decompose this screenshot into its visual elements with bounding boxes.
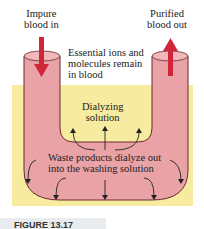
purified-blood-out-label: Purified blood out (147, 8, 187, 30)
label-line: blood in (24, 19, 59, 30)
figure-caption: FIGURE 13.17 (0, 218, 106, 229)
impure-blood-in-label: Impure blood in (24, 8, 59, 30)
label-line: Dialyzing (82, 101, 123, 112)
label-line: molecules remain (68, 58, 144, 69)
label-line: in blood (68, 69, 144, 80)
label-line: solution (82, 112, 123, 123)
label-line: Purified (147, 8, 187, 19)
waste-products-label: Waste products dialyze out into the wash… (48, 152, 161, 174)
label-line: into the washing solution (48, 163, 161, 174)
label-line: blood out (147, 19, 187, 30)
dialyzing-solution-label: Dialyzing solution (82, 101, 123, 123)
label-line: Essential ions and (68, 47, 144, 58)
label-line: Impure (24, 8, 59, 19)
essential-ions-label: Essential ions and molecules remain in b… (68, 47, 144, 80)
label-line: Waste products dialyze out (48, 152, 161, 163)
